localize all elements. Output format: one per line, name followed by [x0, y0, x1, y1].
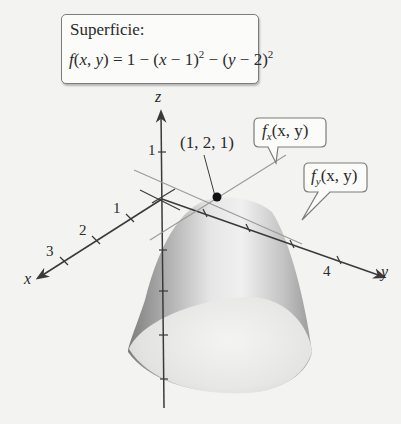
- surface-formula: f(x, y) = 1 − (x − 1)2 − (y − 2)2: [69, 50, 273, 70]
- y-tick-label-4: 4: [323, 263, 331, 280]
- point-leader: [204, 155, 215, 196]
- x-tick-label-3: 3: [46, 243, 54, 260]
- y-axis-label: y: [381, 263, 388, 281]
- origin-cross: [140, 190, 180, 210]
- x-tick-label-2: 2: [79, 222, 87, 239]
- z-tick-label-1: 1: [148, 142, 156, 159]
- origin-cross-2: [152, 189, 175, 203]
- surface-callout: Superficie: f(x, y) = 1 − (x − 1)2 − (y …: [61, 14, 259, 84]
- paraboloid-surface: [128, 198, 312, 394]
- point-label: (1, 2, 1): [180, 133, 234, 153]
- fy-label: fy(x, y): [311, 166, 357, 187]
- x-axis: [38, 199, 162, 278]
- point-marker: [213, 193, 222, 202]
- x-tick-label-1: 1: [113, 200, 121, 217]
- surface-title: Superficie:: [70, 20, 145, 40]
- x-axis-label: x: [24, 270, 31, 288]
- fx-label: fx(x, y): [262, 121, 308, 142]
- z-axis-label: z: [155, 88, 161, 106]
